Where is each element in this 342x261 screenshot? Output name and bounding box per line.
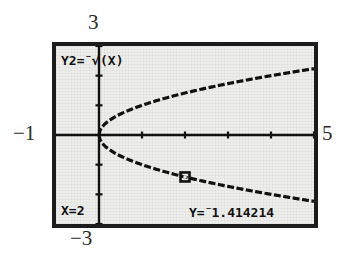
axis-annotation-bottom: −3 — [70, 228, 92, 249]
trace-y-value: 1.414214 — [211, 205, 274, 220]
lcd-surface: Y2=⁻√(X) X=2 Y=⁻1.414214 — [56, 46, 314, 224]
trace-y-readout: Y=⁻1.414214 — [189, 204, 274, 219]
axis-annotation-right: 5 — [322, 123, 333, 144]
calculator-screen[interactable]: Y2=⁻√(X) X=2 Y=⁻1.414214 — [52, 42, 318, 228]
trace-y-prefix: Y= — [189, 205, 205, 220]
graph-plot — [56, 46, 314, 224]
function-label-name: Y2= — [61, 53, 84, 68]
radical-icon: √ — [91, 53, 100, 68]
function-argument: (X) — [100, 53, 123, 68]
trace-x-readout: X=2 — [61, 204, 84, 217]
axis-annotation-left: −1 — [13, 123, 35, 144]
function-label: Y2=⁻√(X) — [61, 52, 123, 67]
axis-annotation-top: 3 — [88, 12, 99, 33]
